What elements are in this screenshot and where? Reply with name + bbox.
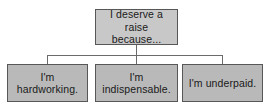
node-leaf-0-line2: hardworking.: [17, 83, 78, 95]
node-leaf-underpaid-label: I'm underpaid.: [186, 77, 260, 90]
node-leaf-2-line1: I'm underpaid.: [189, 77, 257, 89]
node-leaf-hardworking-label: I'mhardworking.: [14, 71, 81, 96]
node-leaf-0-line1: I'm: [41, 71, 55, 83]
node-leaf-underpaid: I'm underpaid.: [182, 64, 263, 102]
connector-horizontal-bus: [47, 55, 223, 56]
connector-drop-left: [47, 55, 48, 64]
connector-drop-right: [222, 55, 223, 64]
node-leaf-1-line1: I'm: [130, 71, 144, 83]
diagram-canvas: I deserve araise because... I'mhardworki…: [0, 0, 270, 111]
node-root-label: I deserve araise because...: [96, 8, 177, 46]
node-root-line2: raise because...: [112, 21, 161, 46]
node-leaf-1-line2: indispensable.: [102, 83, 171, 95]
node-root: I deserve araise because...: [95, 9, 178, 45]
connector-drop-center: [136, 55, 137, 64]
node-leaf-indispensable: I'mindispensable.: [95, 64, 178, 102]
node-leaf-hardworking: I'mhardworking.: [7, 64, 88, 102]
node-leaf-indispensable-label: I'mindispensable.: [99, 71, 174, 96]
node-root-line1: I deserve a: [110, 8, 163, 20]
